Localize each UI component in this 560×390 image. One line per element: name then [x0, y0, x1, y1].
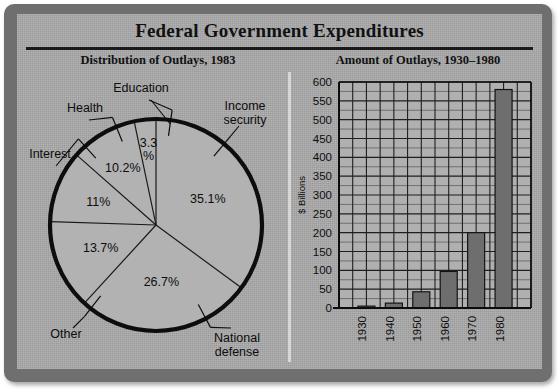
pie-value-label: 11%: [86, 195, 110, 209]
pie-value-label: 35.1%: [190, 192, 225, 206]
bar-y-tick-label: 550: [313, 95, 332, 107]
screenshot-root: Federal Government Expenditures Distribu…: [0, 0, 560, 390]
bar-x-tick-label: 1970: [466, 316, 478, 342]
bar-y-tick-label: 300: [313, 189, 332, 201]
bar-rect: [468, 233, 485, 308]
bar-x-tick-label: 1980: [494, 316, 506, 342]
pie-value-label: 26.7%: [144, 275, 179, 289]
panel-divider: [288, 72, 291, 362]
bar-y-tick-label: 350: [313, 170, 332, 182]
pie-callout-label: Nationaldefense: [214, 331, 260, 359]
pie-callout-label: Interest: [29, 147, 71, 161]
bar-y-tick-label: 0: [326, 302, 332, 314]
pie-callout-label: Other: [50, 327, 81, 341]
pie-chart-svg: 35.1%26.7%13.7%11%10.2%3.3% EducationHea…: [23, 70, 285, 366]
bar-y-tick-label: 150: [313, 246, 332, 258]
pie-callout-leader: [89, 117, 113, 120]
bar-y-tick-label: 400: [313, 151, 332, 163]
pie-callout-leader: [231, 126, 239, 136]
pie-callout-leader: [211, 327, 232, 328]
pie-value-label: 13.7%: [83, 241, 118, 255]
bar-y-axis-title: $ Billions: [296, 176, 307, 214]
chart-inner-panel: Federal Government Expenditures Distribu…: [17, 14, 542, 369]
bar-y-tick-label: 100: [313, 264, 332, 276]
pie-callout-label: Incomesecurity: [223, 99, 267, 127]
bar-rect: [495, 90, 512, 308]
bar-chart-svg: 050100150200250300350400450500550600 193…: [293, 70, 539, 366]
bar-y-tick-labels: 050100150200250300350400450500550600: [313, 76, 332, 314]
bar-x-tick-label: 1940: [384, 316, 396, 342]
bar-y-tick-label: 50: [319, 283, 332, 295]
bar-x-tick-label: 1950: [411, 316, 423, 342]
bar-y-tick-label: 200: [313, 227, 332, 239]
pie-callout-label: Education: [113, 81, 169, 95]
pie-value-label: 10.2%: [105, 161, 140, 175]
bar-chart: 050100150200250300350400450500550600 193…: [293, 70, 539, 366]
pie-callout-label: Health: [67, 101, 103, 115]
bar-rect: [413, 292, 430, 308]
chart-outer-frame: Federal Government Expenditures Distribu…: [4, 4, 552, 382]
bar-y-tick-label: 250: [313, 208, 332, 220]
bar-x-tick-label: 1960: [439, 316, 451, 342]
bar-y-tick-label: 450: [313, 133, 332, 145]
bar-x-tick-labels: 193019401950196019701980: [356, 316, 505, 342]
bar-x-tick-label: 1930: [356, 316, 368, 342]
pie-chart-subtitle: Distribution of Outlays, 1983: [33, 53, 283, 68]
bar-rect: [440, 271, 457, 308]
bar-y-tick-label: 500: [313, 114, 332, 126]
title-divider-rule: [26, 47, 533, 50]
bar-chart-subtitle: Amount of Outlays, 1930–1980: [299, 53, 537, 68]
page-title: Federal Government Expenditures: [17, 20, 542, 42]
bar-y-axis-title-text: $ Billions: [296, 176, 307, 214]
pie-chart: 35.1%26.7%13.7%11%10.2%3.3% EducationHea…: [23, 70, 285, 366]
bar-y-tick-label: 600: [313, 76, 332, 88]
